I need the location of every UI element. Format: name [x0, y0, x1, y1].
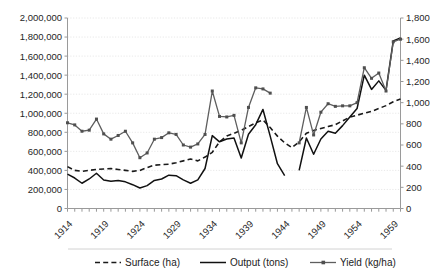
chart-legend: Surface (ha)Output (tons)Yield (kg/ha): [95, 257, 396, 268]
series-marker-2: [370, 77, 373, 80]
legend-item-label-1: Output (tons): [230, 257, 288, 268]
y-axis-right-tick-label: 600: [406, 139, 422, 150]
series-marker-2: [182, 144, 185, 147]
y-axis-left-tick-label: 200,000: [28, 184, 62, 195]
series-marker-2: [254, 86, 257, 89]
series-marker-2: [146, 151, 149, 154]
series-marker-2: [348, 104, 351, 107]
series-marker-2: [334, 105, 337, 108]
series-marker-2: [240, 141, 243, 144]
series-marker-2: [269, 92, 272, 95]
series-marker-2: [225, 115, 228, 118]
series-marker-2: [305, 106, 308, 109]
y-axis-left-tick-labels: 0200,000400,000600,000800,0001,000,0001,…: [20, 12, 62, 214]
series-marker-2: [312, 133, 315, 136]
series-marker-2: [399, 38, 402, 41]
legend-item-label-0: Surface (ha): [125, 257, 180, 268]
y-axis-right-tick-label: 1,600: [406, 34, 430, 45]
series-marker-2: [377, 72, 380, 75]
series-marker-2: [160, 136, 163, 139]
series-marker-2: [319, 111, 322, 114]
series-line-1: [68, 109, 285, 188]
y-axis-left-tick-label: 1,800,000: [20, 31, 62, 42]
x-axis-tick-label: 1929: [160, 218, 183, 241]
series-marker-2: [298, 141, 301, 144]
y-axis-left-tick-label: 1,400,000: [20, 70, 62, 81]
y-axis-right-tick-label: 1,200: [406, 76, 430, 87]
series-line-1: [299, 38, 400, 170]
y-axis-right-tick-label: 1,400: [406, 55, 430, 66]
y-axis-right-tick-label: 0: [406, 203, 411, 214]
y-axis-right-tick-label: 800: [406, 118, 422, 129]
series-marker-2: [356, 101, 359, 104]
series-layer: [66, 38, 402, 188]
x-axis-tick-label: 1919: [88, 218, 111, 241]
legend-swatch-marker-2: [322, 261, 326, 265]
x-axis-tick-label: 1939: [233, 218, 256, 241]
y-axis-right-tick-label: 1,000: [406, 97, 430, 108]
series-marker-2: [80, 130, 83, 133]
series-marker-2: [196, 142, 199, 145]
y-axis-left-tick-label: 600,000: [28, 146, 62, 157]
y-axis-right-tick-label: 400: [406, 161, 422, 172]
series-marker-2: [211, 90, 214, 93]
series-marker-2: [233, 114, 236, 117]
y-axis-left-tick-label: 2,000,000: [20, 12, 62, 23]
series-marker-2: [261, 87, 264, 90]
line-chart: 0200,000400,000600,000800,0001,000,0001,…: [0, 0, 444, 279]
y-axis-left-tick-label: 1,200,000: [20, 89, 62, 100]
series-marker-2: [66, 121, 69, 124]
series-marker-2: [327, 102, 330, 105]
x-axis-tick-label: 1934: [196, 218, 219, 241]
gridlines: [65, 18, 401, 209]
series-marker-2: [109, 138, 112, 141]
series-marker-2: [175, 133, 178, 136]
y-axis-left-tick-label: 800,000: [28, 127, 62, 138]
y-axis-right-tick-label: 200: [406, 182, 422, 193]
series-marker-2: [153, 138, 156, 141]
series-line-2: [68, 88, 271, 158]
series-marker-2: [392, 40, 395, 43]
series-marker-2: [124, 130, 127, 133]
y-axis-right-tick-labels: 02004006008001,0001,2001,4001,6001,800: [401, 12, 430, 214]
x-axis-tick-label: 1954: [341, 218, 364, 241]
series-marker-2: [341, 104, 344, 107]
series-marker-2: [204, 133, 207, 136]
series-marker-2: [131, 141, 134, 144]
x-axis-tick-label: 1944: [269, 218, 292, 241]
y-axis-left-tick-label: 1,000,000: [20, 108, 62, 119]
x-axis-tick-label: 1914: [52, 218, 75, 241]
series-marker-2: [117, 134, 120, 137]
y-axis-left-tick-label: 1,600,000: [20, 51, 62, 62]
series-marker-2: [138, 156, 141, 159]
series-marker-2: [189, 146, 192, 149]
x-axis-tick-label: 1959: [377, 218, 400, 241]
series-marker-2: [88, 129, 91, 132]
series-marker-2: [363, 66, 366, 69]
series-marker-2: [218, 115, 221, 118]
y-axis-right-tick-label: 1,800: [406, 12, 430, 23]
series-marker-2: [385, 90, 388, 93]
series-marker-2: [102, 132, 105, 135]
legend-item-label-2: Yield (kg/ha): [340, 257, 396, 268]
series-marker-2: [95, 118, 98, 121]
y-axis-left-tick-label: 400,000: [28, 165, 62, 176]
x-axis-tick-label: 1924: [124, 218, 147, 241]
chart-container: 0200,000400,000600,000800,0001,000,0001,…: [0, 0, 444, 279]
x-axis-tick-labels: 1914191919241929193419391944194919541959: [52, 218, 400, 241]
x-axis-tick-label: 1949: [305, 218, 328, 241]
series-marker-2: [73, 123, 76, 126]
series-marker-2: [247, 106, 250, 109]
series-marker-2: [167, 131, 170, 134]
y-axis-left-tick-label: 0: [57, 203, 62, 214]
